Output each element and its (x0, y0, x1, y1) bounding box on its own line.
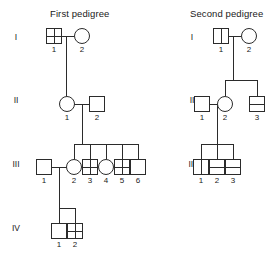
second-pedigree-title: Second pedigree (190, 8, 263, 19)
individual-label-p2-iii-1: 1 (194, 176, 208, 185)
individual-label-p1-i-1: 1 (47, 45, 61, 54)
sibling-drop-line-p2-iii-2 (217, 144, 218, 159)
individual-p2-iii-1 (193, 159, 209, 175)
individual-p1-i-1 (46, 28, 62, 44)
cross-mark-horizontal-icon (68, 231, 82, 232)
vertical-bar-mark-icon (221, 29, 222, 43)
individual-label-p1-iii-5: 5 (115, 176, 129, 185)
sibling-drop-line-p2-ii-2 (225, 80, 226, 96)
individual-label-p1-iii-3: 3 (83, 176, 97, 185)
individual-p2-ii-3 (249, 96, 265, 112)
sibling-drop-line-p1-iii-6 (138, 144, 139, 159)
horizontal-bar-mark-icon (226, 167, 240, 168)
individual-label-p2-ii-1: 1 (195, 113, 209, 122)
individual-label-p2-i-1: 1 (214, 45, 228, 54)
sibship-line-p2-gen2 (225, 80, 257, 81)
individual-label-p1-i-2: 2 (75, 45, 89, 54)
descent-line-gen2-to-gen3 (82, 104, 83, 144)
sibling-drop-line-p1-iii-3 (90, 144, 91, 159)
individual-label-p2-iii-3: 3 (226, 176, 240, 185)
individual-p1-iii-1 (36, 159, 52, 175)
individual-p2-iii-2 (209, 159, 225, 175)
individual-p1-iii-3 (82, 159, 98, 175)
individual-label-p1-iii-1: 1 (37, 176, 51, 185)
sibling-drop-line-p1-iv-2 (75, 208, 76, 223)
horizontal-bar-mark-icon (250, 104, 264, 105)
individual-p2-iii-3 (225, 159, 241, 175)
cross-mark-vertical-icon (122, 160, 123, 174)
cross-mark-horizontal-icon (115, 167, 129, 168)
first-pedigree-generation-label-iv: IV (10, 223, 22, 233)
individual-p2-i-1 (213, 28, 229, 44)
pedigree-figure: First pedigree Second pedigree I II III … (0, 0, 278, 255)
vertical-bar-mark-icon (201, 160, 202, 174)
sibling-drop-line-p2-iii-3 (233, 144, 234, 159)
horizontal-bar-mark-icon (210, 167, 224, 168)
descent-line-p2-gen2-to-gen3 (217, 104, 218, 144)
individual-p1-iii-2 (66, 159, 82, 175)
individual-p1-iii-5 (114, 159, 130, 175)
individual-label-p2-i-2: 2 (242, 45, 256, 54)
cross-mark-horizontal-icon (47, 36, 61, 37)
first-pedigree-generation-label-ii: II (10, 95, 22, 105)
individual-label-p1-iv-2: 2 (68, 240, 82, 249)
first-pedigree-generation-label-i: I (10, 32, 22, 42)
sibling-drop-line-p1-iii-2 (74, 144, 75, 159)
sibling-drop-line-p2-ii-3 (257, 80, 258, 96)
descent-line-gen1-to-gen2 (66, 36, 67, 96)
individual-label-p2-iii-2: 2 (210, 176, 224, 185)
individual-label-p2-ii-2: 2 (218, 113, 232, 122)
individual-label-p1-iii-6: 6 (131, 176, 145, 185)
individual-p1-ii-1 (59, 96, 75, 112)
individual-p1-ii-2 (89, 96, 105, 112)
individual-label-p1-iii-4: 4 (99, 176, 113, 185)
individual-p1-iii-4 (98, 159, 114, 175)
individual-label-p1-iv-1: 1 (52, 240, 66, 249)
sibling-drop-line-p1-iii-5 (122, 144, 123, 159)
descent-line-p2-gen1-to-gen2 (233, 36, 234, 80)
individual-label-p1-ii-2: 2 (90, 113, 104, 122)
individual-p2-i-2 (241, 28, 257, 44)
individual-p1-iii-6 (130, 159, 146, 175)
descent-line-gen3-to-gen4 (59, 167, 60, 208)
individual-label-p2-ii-3: 3 (250, 113, 264, 122)
cross-mark-vertical-icon (75, 224, 76, 238)
cross-mark-vertical-icon (90, 160, 91, 174)
first-pedigree-title: First pedigree (50, 8, 109, 19)
cross-mark-horizontal-icon (83, 167, 97, 168)
second-pedigree-generation-label-i: I (186, 32, 198, 42)
individual-p2-ii-1 (194, 96, 210, 112)
individual-p1-i-2 (74, 28, 90, 44)
individual-p1-iv-1 (51, 223, 67, 239)
sibship-line-gen4 (59, 208, 75, 209)
sibling-drop-line-p2-iii-1 (201, 144, 202, 159)
individual-label-p1-ii-1: 1 (60, 113, 74, 122)
cross-mark-vertical-icon (54, 29, 55, 43)
individual-p2-ii-2 (217, 96, 233, 112)
sibling-drop-line-p1-iv-1 (59, 208, 60, 223)
individual-p1-iv-2 (67, 223, 83, 239)
sibling-drop-line-p1-iii-4 (106, 144, 107, 159)
first-pedigree-generation-label-iii: III (10, 159, 22, 169)
individual-label-p1-iii-2: 2 (67, 176, 81, 185)
